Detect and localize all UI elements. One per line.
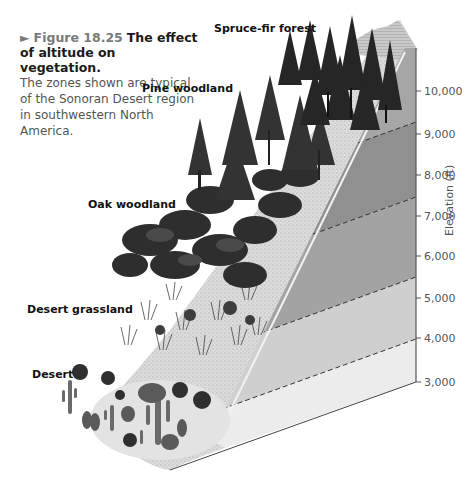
axis-title-elevation: Elevation (ft): [443, 165, 456, 236]
tick-label-3000: 3,000: [424, 376, 456, 389]
tick-label-9000: 9,000: [424, 128, 456, 141]
tick-label-5000: 5,000: [424, 292, 456, 305]
axis-ticks: [416, 91, 421, 382]
tick-label-6000: 6,000: [424, 250, 456, 263]
zone-label-pine: Pine woodland: [142, 82, 233, 95]
altitude-vegetation-figure: ► Figure 18.25 The effect of altitude on…: [0, 0, 467, 489]
zone-label-oak: Oak woodland: [88, 198, 176, 211]
zone-label-grassland: Desert grassland: [27, 303, 133, 316]
tick-label-10000: 10,000: [424, 85, 463, 98]
zone-label-desert: Desert: [32, 368, 73, 381]
caption-marker-icon: ►: [20, 30, 30, 45]
tick-label-4000: 4,000: [424, 332, 456, 345]
zone-label-spruce-fir: Spruce-fir forest: [214, 22, 316, 35]
figure-number: Figure 18.25: [34, 30, 123, 45]
